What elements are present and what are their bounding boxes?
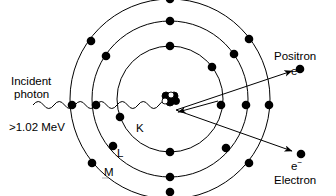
electron-dot (217, 101, 226, 110)
electron-dot (109, 142, 118, 151)
nucleus (162, 92, 180, 106)
photon-energy-label: >1.02 MeV (9, 121, 65, 134)
electron-dot (88, 159, 97, 168)
electron-dot (166, 173, 175, 182)
nucleus-neutron (173, 98, 180, 105)
nucleus-proton (162, 98, 168, 104)
diagram-canvas: Incident photon >1.02 MeV Positron e+ e−… (0, 0, 336, 196)
electron-label: Electron (274, 174, 316, 187)
positron-charge-sup: + (297, 63, 302, 72)
shell-label-m: M (104, 166, 114, 179)
electron-symbol-label: e− (291, 160, 302, 173)
electron-dot (68, 101, 77, 110)
nucleus-proton (168, 92, 174, 98)
electron-dot (166, 0, 175, 3)
electron-ray (176, 110, 292, 151)
electron-dot (166, 188, 175, 196)
incident-photon-label-line1: Incident (11, 75, 51, 88)
positron-label: Positron (274, 50, 316, 63)
electron-dot (166, 17, 175, 26)
electron-dot (166, 42, 175, 51)
electron-dot (116, 113, 125, 122)
electron-dot (245, 159, 254, 168)
shell-label-k: K (136, 122, 144, 135)
positron-symbol-label: e+ (291, 65, 302, 78)
electron-dot (222, 144, 231, 153)
electron-dot (92, 101, 101, 110)
electron-dot (230, 50, 239, 59)
electron-dot (208, 63, 217, 72)
electron-dot (242, 101, 251, 110)
electron-dot (102, 52, 111, 61)
incident-photon-label: Incident photon (11, 75, 51, 101)
incident-photon-label-line2: photon (11, 88, 51, 101)
electron-charge-sup: − (297, 158, 302, 167)
electron-dot (166, 148, 175, 157)
electron-dot (87, 37, 96, 46)
electron-dot (265, 101, 274, 110)
shell-label-l: L (117, 147, 123, 160)
positron-ray (176, 71, 292, 110)
electron-dot (245, 35, 254, 44)
electron-particle (297, 150, 306, 159)
